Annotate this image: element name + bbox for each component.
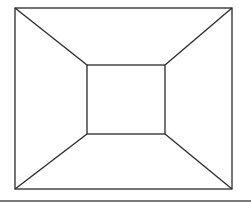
edge-bottom-right <box>165 134 232 189</box>
edge-bottom-left <box>15 134 87 189</box>
box-perspective-diagram <box>0 0 251 202</box>
inner-rectangle <box>87 65 165 134</box>
edge-top-right <box>165 8 232 65</box>
edge-top-left <box>15 8 87 65</box>
